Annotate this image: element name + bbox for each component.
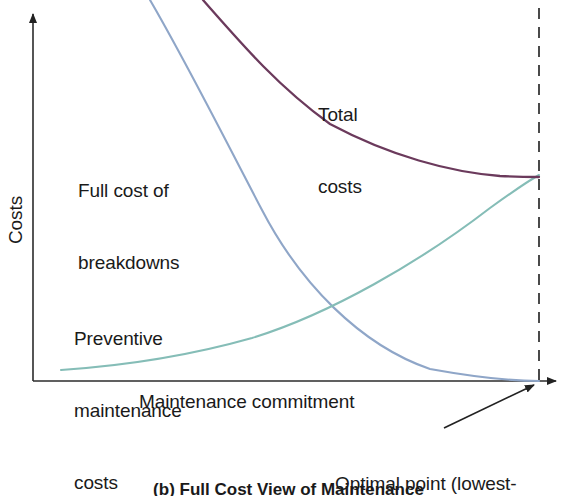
series-label-line-2: maintenance: [74, 399, 182, 423]
figure-caption: (b) Full Cost View of Maintenance: [0, 480, 577, 496]
series-label-line-1: Full cost of: [78, 179, 179, 203]
series-label-line-2: costs: [318, 175, 362, 199]
series-label-total-costs: Total costs: [318, 55, 362, 247]
curve-total-costs: [203, 0, 539, 177]
series-label-line-2: breakdowns: [78, 251, 179, 275]
full-cost-maintenance-figure: Costs Maintenance commitment Full cost o…: [0, 0, 577, 496]
series-label-line-1: Total: [318, 103, 362, 127]
optimal-point-annotation-arrow: [444, 385, 534, 428]
series-label-preventive-maintenance-costs: Preventive maintenance costs: [74, 279, 182, 496]
y-axis-label: Costs: [4, 196, 28, 244]
series-label-line-1: Preventive: [74, 327, 182, 351]
